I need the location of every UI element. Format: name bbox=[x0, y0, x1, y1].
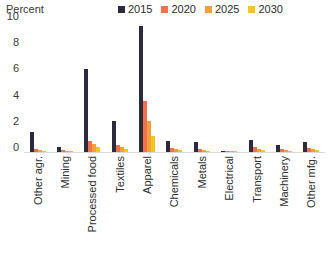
x-axis-category-label: Mining bbox=[59, 156, 71, 188]
bar-chart: Percent 2015202020252030 1086420 Other a… bbox=[0, 0, 331, 259]
bar-2030[interactable] bbox=[178, 150, 182, 152]
bar-group bbox=[79, 21, 106, 152]
bar-groups bbox=[24, 21, 325, 152]
x-axis-category-label: Machinery bbox=[278, 156, 290, 207]
legend-swatch-icon bbox=[118, 6, 125, 13]
bar-2030[interactable] bbox=[42, 151, 46, 152]
bar-group bbox=[216, 21, 243, 152]
legend-label: 2020 bbox=[171, 4, 195, 15]
bar-group bbox=[243, 21, 270, 152]
x-axis-category-label: Apparel bbox=[141, 156, 153, 194]
legend-swatch-icon bbox=[205, 6, 212, 13]
y-axis-tick-label: 8 bbox=[13, 36, 19, 48]
bar-2030[interactable] bbox=[206, 151, 210, 152]
bar-group bbox=[106, 21, 133, 152]
x-axis-category-label: Processed food bbox=[86, 156, 98, 232]
legend-swatch-icon bbox=[248, 6, 255, 13]
x-axis-category-label: Transport bbox=[251, 156, 263, 203]
x-axis-category: Electrical bbox=[216, 154, 243, 258]
x-axis-category: Chemicals bbox=[161, 154, 188, 258]
plot-area bbox=[24, 21, 325, 152]
bar-group bbox=[51, 21, 78, 152]
bar-2030[interactable] bbox=[315, 150, 319, 152]
x-axis-category: Transport bbox=[243, 154, 270, 258]
x-axis-category-label: Other mfg. bbox=[305, 156, 317, 208]
y-axis-tick-label: 10 bbox=[7, 10, 19, 22]
bar-2030[interactable] bbox=[261, 150, 265, 152]
bar-2030[interactable] bbox=[96, 147, 100, 153]
x-axis-category-label: Chemicals bbox=[168, 156, 180, 207]
y-axis-tick-label: 4 bbox=[13, 89, 19, 101]
legend-item-2020[interactable]: 2020 bbox=[161, 4, 195, 15]
y-axis-tick-label: 0 bbox=[13, 141, 19, 153]
chart-legend: 2015202020252030 bbox=[118, 4, 283, 15]
bar-2030[interactable] bbox=[124, 149, 128, 152]
y-axis-tick-labels: 1086420 bbox=[0, 16, 22, 152]
legend-item-2030[interactable]: 2030 bbox=[248, 4, 282, 15]
legend-item-2025[interactable]: 2025 bbox=[205, 4, 239, 15]
x-axis-category-label: Textiles bbox=[114, 156, 126, 193]
legend-item-2015[interactable]: 2015 bbox=[118, 4, 152, 15]
x-axis-category-label: Other agr. bbox=[32, 156, 44, 205]
bar-group bbox=[133, 21, 160, 152]
bar-2015[interactable] bbox=[84, 69, 88, 152]
bar-2030[interactable] bbox=[151, 136, 155, 152]
y-axis-tick-label: 6 bbox=[13, 62, 19, 74]
y-axis-tick-label: 2 bbox=[13, 115, 19, 127]
x-axis-baseline bbox=[24, 152, 325, 153]
bar-group bbox=[161, 21, 188, 152]
x-axis-category-label: Electrical bbox=[223, 156, 235, 201]
x-axis-category-labels: Other agr.MiningProcessed foodTextilesAp… bbox=[24, 154, 325, 258]
legend-swatch-icon bbox=[161, 6, 168, 13]
x-axis-category: Apparel bbox=[133, 154, 160, 258]
bar-2030[interactable] bbox=[233, 151, 237, 152]
bar-2030[interactable] bbox=[288, 151, 292, 152]
bar-group bbox=[270, 21, 297, 152]
bar-2030[interactable] bbox=[69, 151, 73, 152]
legend-label: 2015 bbox=[128, 4, 152, 15]
x-axis-category: Machinery bbox=[270, 154, 297, 258]
x-axis-category: Other agr. bbox=[24, 154, 51, 258]
legend-label: 2030 bbox=[258, 4, 282, 15]
x-axis-category: Mining bbox=[51, 154, 78, 258]
x-axis-category: Metals bbox=[188, 154, 215, 258]
legend-label: 2025 bbox=[215, 4, 239, 15]
bar-group bbox=[188, 21, 215, 152]
bar-group bbox=[24, 21, 51, 152]
x-axis-category-label: Metals bbox=[196, 156, 208, 188]
x-axis-category: Other mfg. bbox=[298, 154, 325, 258]
x-axis-category: Processed food bbox=[79, 154, 106, 258]
bar-group bbox=[298, 21, 325, 152]
x-axis-category: Textiles bbox=[106, 154, 133, 258]
